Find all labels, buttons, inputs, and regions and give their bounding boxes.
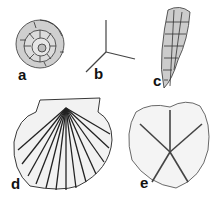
label-c: c [153, 73, 161, 88]
label-a: a [18, 67, 26, 82]
foraminifera-illustration [16, 20, 64, 68]
figure-drawings [0, 0, 222, 199]
label-e: e [140, 175, 148, 190]
label-d: d [11, 176, 20, 191]
label-b: b [94, 66, 103, 81]
conical-shell-illustration [161, 7, 190, 88]
fossil-figure: a b c d e [0, 0, 222, 199]
scallop-illustration [14, 98, 112, 190]
